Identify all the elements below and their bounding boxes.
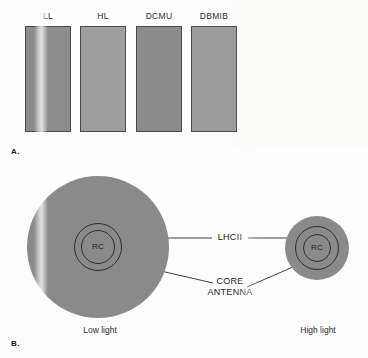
- panel-b: RC Low light RC High light LHCII CORE AN…: [0, 150, 368, 358]
- bar-group-ll: LL: [24, 10, 72, 132]
- callout-lhcii: LHCII: [205, 232, 255, 243]
- bar-rect-hl: [80, 26, 126, 132]
- high-light-condition-label: High light: [276, 325, 360, 335]
- low-light-rc-label: RC: [81, 243, 115, 251]
- bar-label-ll: LL: [24, 10, 72, 22]
- panel-b-letter: B.: [11, 339, 20, 348]
- callout-core-antenna: CORE ANTENNA: [203, 276, 257, 298]
- figure-container: LL HL DCMU DBMIB A.: [0, 0, 368, 358]
- bar-group-dcmu: DCMU: [135, 10, 183, 132]
- bar-label-hl: HL: [79, 10, 127, 22]
- bar-label-dbmib: DBMIB: [190, 10, 238, 22]
- bar-group-dbmib: DBMIB: [190, 10, 238, 132]
- bar-rect-dbmib: [191, 26, 237, 132]
- bar-rect-dcmu: [136, 26, 182, 132]
- bar-label-dcmu: DCMU: [135, 10, 183, 22]
- panel-a: LL HL DCMU DBMIB A.: [0, 0, 368, 160]
- low-light-condition-label: Low light: [58, 325, 142, 335]
- bar-group-hl: HL: [79, 10, 127, 132]
- high-light-rc-label: RC: [303, 244, 331, 252]
- bar-rect-ll: [25, 26, 71, 132]
